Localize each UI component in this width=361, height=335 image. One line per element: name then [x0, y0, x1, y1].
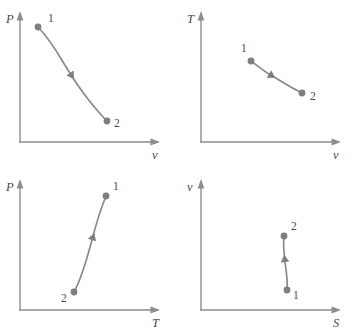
state-point-2 — [71, 289, 78, 296]
process-curve-pt — [74, 196, 106, 292]
process-direction-arrow — [267, 70, 278, 81]
chart-panel-pressure-volume: P v 1 2 — [0, 0, 180, 167]
y-axis-label: P — [5, 180, 14, 194]
process-curve-tv — [251, 61, 302, 93]
x-axis-arrowhead — [332, 139, 342, 146]
state-point-2 — [281, 233, 288, 240]
x-axis-label: T — [152, 316, 160, 330]
x-axis-label: S — [333, 316, 340, 330]
axes-pt — [17, 179, 160, 313]
x-axis-label: v — [152, 148, 158, 162]
x-axis-arrowhead — [332, 307, 342, 314]
y-axis-arrowhead — [17, 179, 24, 189]
thermodynamic-diagram-figure: P v 1 2 T v 1 2 — [0, 0, 361, 335]
state-point-1 — [248, 58, 255, 65]
y-axis-arrowhead — [17, 11, 24, 21]
state-point-2 — [104, 118, 111, 125]
state-point-1 — [103, 193, 110, 200]
state-label-1: 1 — [293, 289, 299, 301]
x-axis-arrowhead — [151, 307, 161, 314]
axes-tv — [198, 11, 341, 145]
y-axis-label: P — [5, 12, 14, 26]
process-curve-vs — [284, 236, 288, 290]
state-label-1: 1 — [48, 12, 54, 24]
axes-pv — [17, 11, 160, 145]
state-point-1 — [284, 287, 291, 294]
state-label-2: 2 — [291, 220, 297, 232]
state-label-1: 1 — [241, 42, 247, 54]
state-label-2: 2 — [61, 292, 67, 304]
axes-vs — [198, 179, 341, 313]
state-label-1: 1 — [113, 180, 119, 192]
x-axis-arrowhead — [151, 139, 161, 146]
state-label-2: 2 — [310, 90, 316, 102]
y-axis-arrowhead — [198, 179, 205, 189]
y-axis-label: v — [187, 180, 193, 194]
chart-panel-pressure-temperature: P T 1 2 — [0, 168, 180, 335]
state-point-1 — [35, 24, 42, 31]
chart-panel-temperature-volume: T v 1 2 — [181, 0, 361, 167]
state-point-2 — [299, 90, 306, 97]
chart-panel-volume-entropy: v S 2 1 — [181, 168, 361, 335]
process-direction-arrow — [66, 71, 77, 82]
y-axis-arrowhead — [198, 11, 205, 21]
x-axis-label: v — [333, 148, 339, 162]
y-axis-label: T — [187, 12, 195, 26]
process-direction-arrow — [280, 254, 289, 262]
state-label-2: 2 — [114, 117, 120, 129]
